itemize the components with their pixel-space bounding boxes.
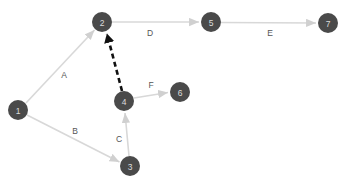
edge-E[interactable] xyxy=(221,23,316,24)
node-label-5: 5 xyxy=(209,18,214,28)
node-3[interactable]: 3 xyxy=(120,156,140,176)
node-6[interactable]: 6 xyxy=(170,82,190,102)
node-1[interactable]: 1 xyxy=(8,100,28,120)
edge-label-F: F xyxy=(148,80,153,90)
node-7[interactable]: 7 xyxy=(318,13,338,33)
node-label-1: 1 xyxy=(16,106,21,116)
node-2[interactable]: 2 xyxy=(92,12,112,32)
node-label-2: 2 xyxy=(100,18,105,28)
edge-labels-layer: A B C D E F xyxy=(61,28,273,144)
edge-label-B: B xyxy=(72,126,78,136)
edge-highlight-4-to-2[interactable] xyxy=(107,34,122,91)
node-label-7: 7 xyxy=(326,19,331,29)
edge-label-E: E xyxy=(267,28,273,38)
edge-F[interactable] xyxy=(134,93,168,99)
node-label-6: 6 xyxy=(178,88,183,98)
edge-label-C: C xyxy=(116,134,122,144)
nodes-layer: 1 2 3 4 5 6 7 xyxy=(8,12,338,176)
edge-label-D: D xyxy=(147,28,153,38)
node-label-3: 3 xyxy=(128,162,133,172)
edge-label-A: A xyxy=(61,70,67,80)
graph-canvas: A B C D E F 1 2 3 4 xyxy=(0,0,349,186)
edge-C[interactable] xyxy=(125,113,129,156)
node-label-4: 4 xyxy=(122,97,127,107)
edge-B[interactable] xyxy=(27,115,120,162)
edge-A[interactable] xyxy=(26,30,95,103)
node-4[interactable]: 4 xyxy=(114,91,134,111)
graph-svg: A B C D E F 1 2 3 4 xyxy=(0,0,349,186)
node-5[interactable]: 5 xyxy=(201,12,221,32)
